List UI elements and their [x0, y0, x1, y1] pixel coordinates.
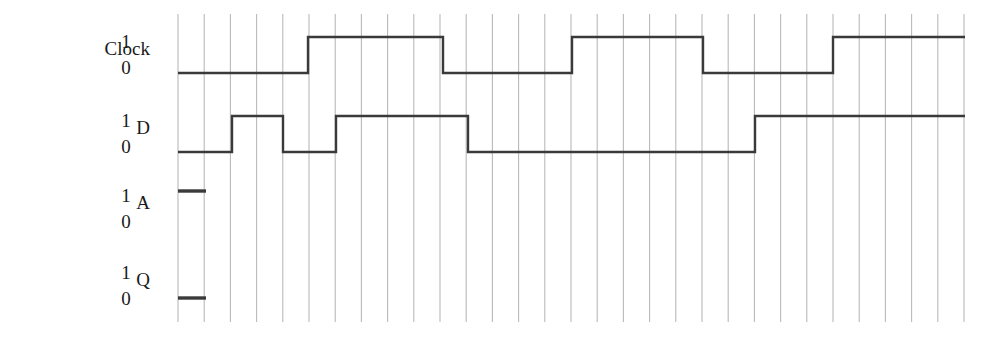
- waveform-canvas: [0, 0, 1002, 343]
- waveform-clock: [178, 37, 965, 73]
- timing-diagram: Clock 1 0 D 1 0 A 1 0 Q 1 0: [0, 0, 1002, 343]
